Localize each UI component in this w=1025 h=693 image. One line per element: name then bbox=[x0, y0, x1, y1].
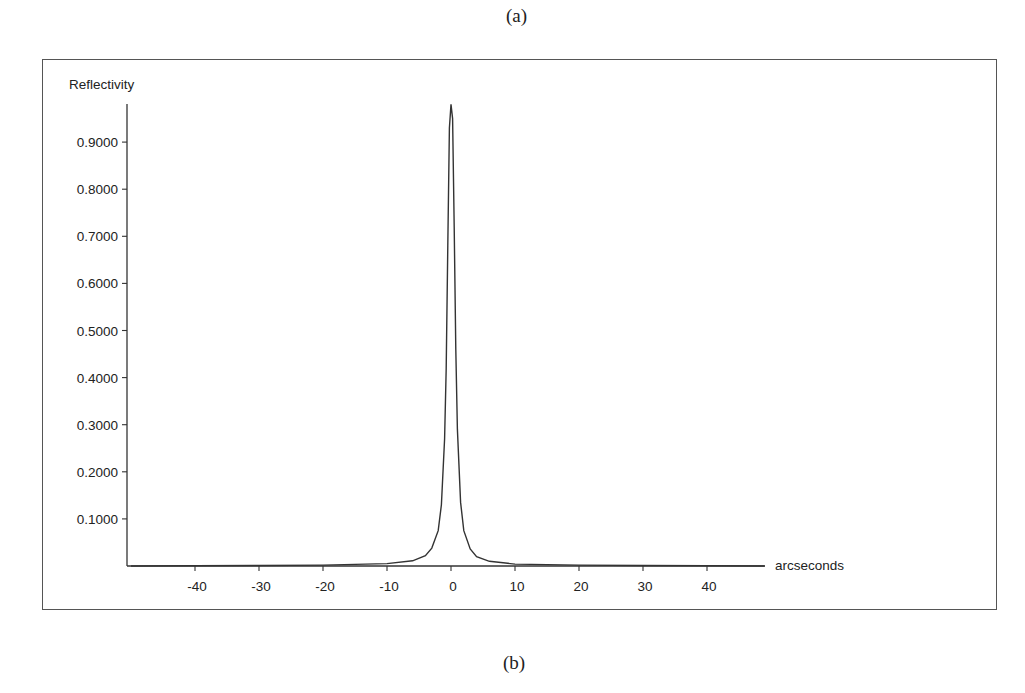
x-tick-label: -10 bbox=[379, 579, 399, 594]
x-tick-label: -20 bbox=[315, 579, 335, 594]
x-tick-label: 40 bbox=[701, 579, 716, 594]
y-tick-label: 0.8000 bbox=[77, 182, 118, 197]
y-tick-label: 0.5000 bbox=[77, 324, 118, 339]
y-tick-label: 0.7000 bbox=[77, 229, 118, 244]
reflectivity-curve bbox=[131, 104, 765, 566]
x-tick-label: 10 bbox=[509, 579, 524, 594]
x-tick-label: 30 bbox=[637, 579, 652, 594]
y-tick-label: 0.1000 bbox=[77, 512, 118, 527]
x-axis-title: arcseconds bbox=[775, 558, 844, 573]
x-tick-label: 0 bbox=[449, 579, 457, 594]
chart-ticks: 0.10000.20000.30000.40000.50000.60000.70… bbox=[77, 135, 717, 594]
y-tick-label: 0.2000 bbox=[77, 465, 118, 480]
figure-caption-b: (b) bbox=[503, 652, 525, 674]
y-tick-label: 0.6000 bbox=[77, 276, 118, 291]
x-tick-label: -30 bbox=[251, 579, 271, 594]
x-tick-label: 20 bbox=[573, 579, 588, 594]
y-tick-label: 0.4000 bbox=[77, 371, 118, 386]
y-tick-label: 0.9000 bbox=[77, 135, 118, 150]
x-tick-label: -40 bbox=[187, 579, 207, 594]
y-axis-title: Reflectivity bbox=[69, 77, 135, 92]
y-tick-label: 0.3000 bbox=[77, 418, 118, 433]
reflectivity-chart: 0.10000.20000.30000.40000.50000.60000.70… bbox=[0, 0, 1025, 693]
